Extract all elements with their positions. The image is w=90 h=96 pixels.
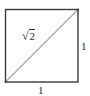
- radical-sign: √: [22, 29, 29, 43]
- right-side-length-label: 1: [81, 41, 87, 52]
- diagonal-length-label: √2: [22, 31, 35, 42]
- vertex-bottom-left: [5, 81, 7, 83]
- vertex-top-right: [77, 9, 79, 11]
- radicand: 2: [29, 29, 36, 42]
- unit-square-diagram: [0, 0, 90, 96]
- bottom-side-length-label: 1: [38, 85, 44, 96]
- diagonal-line: [6, 10, 79, 83]
